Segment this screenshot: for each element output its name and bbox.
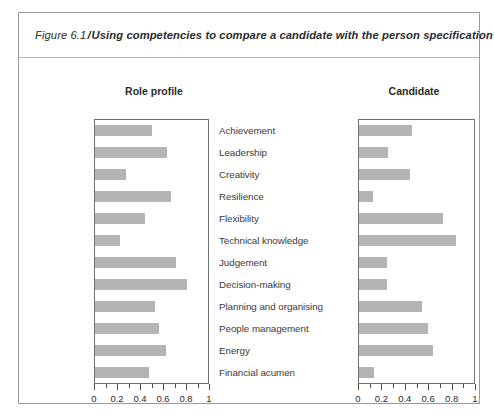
axis-tick-label: 0: [91, 393, 96, 404]
x-axis-role-profile: 00.20.40.60.81: [94, 384, 209, 410]
category-label: Judgement: [219, 251, 351, 273]
bar: [95, 345, 166, 356]
bar: [359, 301, 422, 312]
axis-tick-major: [358, 384, 359, 390]
axis-tick-label: 0.8: [445, 393, 458, 404]
axis-tick-minor: [198, 384, 199, 388]
category-label: Energy: [219, 340, 351, 362]
axis-tick-minor: [440, 384, 441, 388]
axis-tick-minor: [370, 384, 371, 388]
bar-row: [359, 295, 474, 317]
category-label: Technical knowledge: [219, 229, 351, 251]
bar: [359, 279, 387, 290]
bar: [95, 323, 159, 334]
bar: [95, 235, 120, 246]
panel-heading-role-profile: Role profile: [79, 85, 229, 97]
bar-row: [95, 252, 208, 274]
axis-tick-minor: [106, 384, 107, 388]
bar: [95, 147, 167, 158]
axis-tick-major: [117, 384, 118, 390]
bar-row: [359, 230, 474, 252]
axis-tick-minor: [393, 384, 394, 388]
bar-group-candidate: [359, 120, 474, 383]
axis-tick-minor: [417, 384, 418, 388]
bar-row: [359, 186, 474, 208]
bar: [95, 301, 155, 312]
bar-row: [359, 273, 474, 295]
bar: [95, 191, 171, 202]
figure-caption: Figure 6.1/Using competencies to compare…: [35, 29, 493, 41]
category-label: Planning and organising: [219, 296, 351, 318]
axis-tick-label: 1: [206, 393, 211, 404]
category-label: Decision-making: [219, 274, 351, 296]
axis-tick-major: [452, 384, 453, 390]
bar: [95, 367, 149, 378]
axis-tick-major: [186, 384, 187, 390]
axis-tick-major: [140, 384, 141, 390]
bar-row: [95, 295, 208, 317]
bar: [359, 169, 410, 180]
panel-heading-candidate: Candidate: [339, 85, 489, 97]
axis-tick-label: 0.2: [375, 393, 388, 404]
bar-row: [95, 142, 208, 164]
bar-row: [95, 273, 208, 295]
category-label: People management: [219, 318, 351, 340]
category-label: Flexibility: [219, 207, 351, 229]
bar-row: [359, 164, 474, 186]
bar-row: [359, 317, 474, 339]
axis-tick-major: [475, 384, 476, 390]
bar: [359, 213, 443, 224]
axis-tick-major: [405, 384, 406, 390]
axis-tick-major: [428, 384, 429, 390]
bar-row: [95, 186, 208, 208]
category-label: Achievement: [219, 119, 351, 141]
bar-row: [95, 164, 208, 186]
category-label: Resilience: [219, 185, 351, 207]
bar: [95, 279, 187, 290]
axis-tick-minor: [175, 384, 176, 388]
bar-row: [359, 142, 474, 164]
bar-row: [95, 230, 208, 252]
plot-area-candidate: [358, 119, 475, 384]
figure-title-text: Using competencies to compare a candidat…: [92, 29, 493, 41]
axis-tick-label: 0.8: [179, 393, 192, 404]
bar: [95, 169, 126, 180]
bar-row: [359, 339, 474, 361]
axis-tick-label: 0: [355, 393, 360, 404]
bar-row: [359, 252, 474, 274]
figure-frame: Figure 6.1/Using competencies to compare…: [18, 12, 480, 404]
bar: [359, 191, 373, 202]
bar-row: [359, 120, 474, 142]
axis-tick-major: [163, 384, 164, 390]
x-axis-candidate: 00.20.40.60.81: [358, 384, 475, 410]
bar-row: [95, 339, 208, 361]
category-label: Creativity: [219, 163, 351, 185]
bar-row: [95, 361, 208, 383]
bar: [359, 125, 412, 136]
category-label-list: AchievementLeadershipCreativityResilienc…: [219, 119, 351, 384]
bar-row: [95, 120, 208, 142]
axis-tick-label: 0.4: [133, 393, 146, 404]
bar: [95, 125, 152, 136]
bar: [359, 323, 428, 334]
bar: [95, 213, 145, 224]
axis-tick-label: 0.6: [156, 393, 169, 404]
axis-tick-label: 1: [472, 393, 477, 404]
bar: [359, 235, 456, 246]
axis-tick-label: 0.2: [110, 393, 123, 404]
category-label: Financial acumen: [219, 362, 351, 384]
bar: [359, 345, 433, 356]
title-divider: [19, 57, 479, 58]
axis-tick-major: [209, 384, 210, 390]
plot-area-role-profile: [94, 119, 209, 384]
axis-tick-label: 0.6: [422, 393, 435, 404]
bar: [359, 367, 374, 378]
bar-row: [359, 208, 474, 230]
axis-tick-minor: [463, 384, 464, 388]
axis-tick-label: 0.4: [398, 393, 411, 404]
bar-group-role-profile: [95, 120, 208, 383]
axis-tick-major: [94, 384, 95, 390]
bar: [95, 257, 176, 268]
bar-row: [359, 361, 474, 383]
bar-row: [95, 317, 208, 339]
